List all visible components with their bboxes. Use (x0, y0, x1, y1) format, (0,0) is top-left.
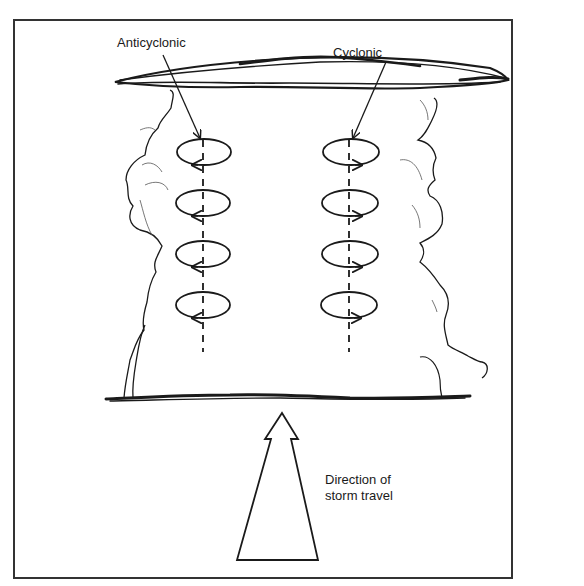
cyclonic-ring (322, 241, 378, 267)
direction-label: Direction of storm travel (325, 472, 425, 504)
cyclonic-label: Cyclonic (333, 45, 382, 61)
anvil-cloud-top (115, 57, 508, 89)
anticyclonic-label: Anticyclonic (117, 35, 186, 51)
cyclonic-ring (322, 190, 378, 216)
cloud-body-outline (124, 90, 487, 398)
direction-label-line1: Direction of (325, 472, 425, 488)
storm-diagram (0, 0, 584, 586)
cyclonic-leader-line (353, 62, 386, 138)
cyclonic-ring (323, 139, 379, 165)
storm-direction-arrow-icon (237, 413, 318, 560)
direction-label-line2: storm travel (325, 488, 425, 504)
cyclonic-vortex-column (321, 139, 379, 352)
anticyclonic-ring (177, 139, 231, 165)
cloud-base (106, 395, 470, 401)
anticyclonic-vortex-column (176, 139, 231, 352)
